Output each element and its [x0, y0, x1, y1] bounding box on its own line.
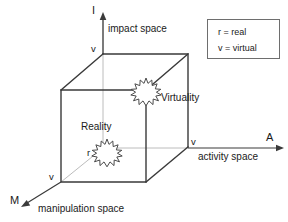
manipulation-origin-mark: v — [49, 171, 54, 182]
diagram-canvas: I impact space v A activity space v M ma… — [0, 0, 288, 222]
activity-axis-arrowhead — [276, 145, 284, 152]
impact-origin-mark: v — [91, 43, 96, 54]
impact-axis-letter: I — [92, 4, 95, 16]
reality-point-mark: r — [87, 147, 90, 158]
cube-edge-top-left — [61, 54, 103, 90]
manipulation-axis-name: manipulation space — [38, 203, 125, 214]
cube-edge-bottom-right — [146, 147, 188, 182]
manipulation-axis-letter: M — [10, 194, 19, 206]
reality-label: Reality — [81, 121, 112, 132]
legend-row-real: r = real — [218, 27, 246, 37]
virtuality-label: Virtuality — [161, 92, 199, 103]
impact-axis-arrowhead — [100, 12, 107, 20]
cube-wireframe — [61, 54, 188, 182]
manipulation-axis-arrowhead — [21, 200, 30, 207]
impact-axis-name: impact space — [108, 23, 167, 34]
diagram-root: I impact space v A activity space v M ma… — [0, 0, 288, 222]
legend-row-virtual: v = virtual — [218, 43, 257, 53]
activity-origin-mark: v — [191, 136, 196, 147]
activity-axis-name: activity space — [198, 151, 258, 162]
virtuality-starburst — [131, 78, 161, 106]
activity-axis-letter: A — [266, 131, 274, 143]
manipulation-axis-line — [27, 182, 61, 203]
reality-starburst — [92, 139, 122, 167]
